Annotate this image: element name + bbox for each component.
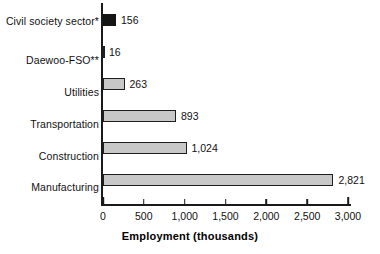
x-tick-label-3000: 3,000 bbox=[318, 210, 378, 222]
bar-civil-society-sector bbox=[103, 14, 116, 26]
x-tick-1500 bbox=[225, 199, 227, 204]
plot-area: 156 16 263 893 1,024 2,821 0 500 1,000 1… bbox=[103, 3, 348, 204]
bar-chart: Civil society sector* Daewoo-FSO** Utili… bbox=[0, 0, 380, 254]
bar-value-manufacturing: 2,821 bbox=[339, 174, 365, 186]
category-label-civil-society-sector: Civil society sector* bbox=[0, 15, 99, 28]
bar-construction bbox=[103, 142, 187, 154]
bar-value-utilities: 263 bbox=[130, 78, 148, 90]
category-label-transportation: Transportation bbox=[0, 118, 99, 131]
x-tick-2500 bbox=[306, 199, 308, 204]
bar-value-civil-society-sector: 156 bbox=[121, 14, 139, 26]
category-label-utilities: Utilities bbox=[0, 86, 99, 99]
x-tick-1000 bbox=[184, 199, 186, 204]
x-tick-2000 bbox=[265, 199, 267, 204]
bar-utilities bbox=[103, 78, 125, 90]
x-axis-line bbox=[101, 204, 351, 206]
bar-value-construction: 1,024 bbox=[192, 142, 218, 154]
bar-transportation bbox=[103, 110, 176, 122]
category-label-manufacturing: Manufacturing bbox=[0, 181, 99, 194]
bar-daewoo-fso bbox=[103, 46, 105, 58]
bar-value-transportation: 893 bbox=[181, 110, 199, 122]
bar-value-daewoo-fso: 16 bbox=[109, 46, 121, 58]
x-tick-0 bbox=[102, 197, 104, 204]
x-axis-title: Employment (thousands) bbox=[0, 230, 380, 242]
category-label-construction: Construction bbox=[0, 150, 99, 163]
x-tick-500 bbox=[143, 199, 145, 204]
bar-manufacturing bbox=[103, 174, 333, 186]
x-tick-3000 bbox=[347, 197, 349, 204]
category-label-daewoo-fso: Daewoo-FSO** bbox=[0, 54, 99, 67]
